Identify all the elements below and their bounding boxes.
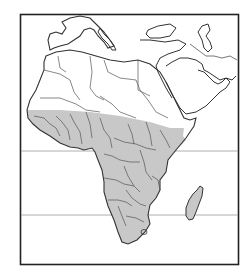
africa-map — [0, 0, 252, 274]
